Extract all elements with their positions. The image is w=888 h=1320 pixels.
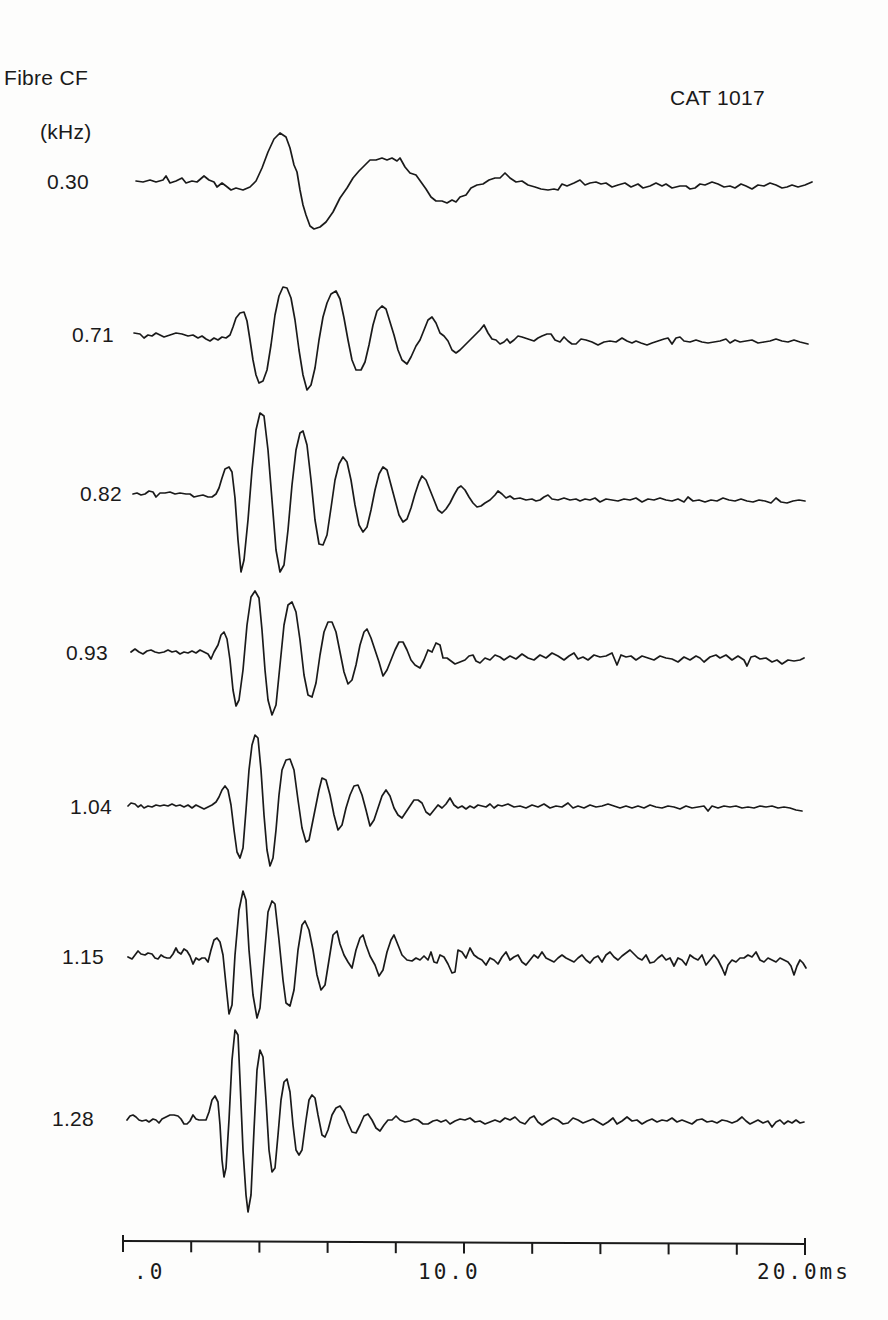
- waveform-traces: [127, 133, 812, 1212]
- trace-plot: [0, 0, 888, 1320]
- x-tick-label-20: 20.0ms: [757, 1260, 851, 1284]
- trace-1-15: [128, 891, 806, 1018]
- trace-0-82: [133, 413, 805, 572]
- trace-1-28: [127, 1030, 804, 1212]
- trace-1-04: [128, 735, 802, 866]
- x-tick-label-10: 10.0: [418, 1260, 481, 1284]
- time-axis: [123, 1235, 805, 1255]
- x-tick-label-0: .0: [134, 1260, 165, 1284]
- trace-0-30: [136, 133, 812, 229]
- trace-0-71: [134, 287, 808, 390]
- trace-0-93: [131, 591, 804, 715]
